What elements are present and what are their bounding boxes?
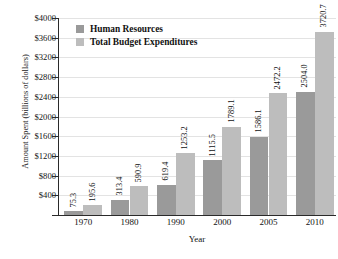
legend-swatch-icon (76, 25, 84, 33)
bar-value-label: 1253.2 (181, 126, 189, 149)
legend-item: Human Resources (76, 23, 197, 35)
bar-value-label: 1115.5 (208, 134, 216, 156)
y-axis-tick-mark (52, 176, 58, 177)
bar-value-label: 75.3 (69, 193, 77, 208)
y-axis-tick-mark (52, 77, 58, 78)
y-axis-tick-mark (52, 18, 58, 19)
y-axis-tick-mark (52, 195, 58, 196)
bar-value-label: 313.4 (116, 177, 124, 196)
bar-chart: Federal Budget Expenditures Amount Spent… (0, 0, 338, 259)
bar: 2504.0 (296, 92, 315, 215)
bar-value-label: 590.9 (135, 163, 143, 182)
y-axis-tick-mark (52, 136, 58, 137)
legend-item: Total Budget Expenditures (76, 36, 197, 48)
x-axis-tick-label: 1970 (74, 218, 92, 227)
bar-value-label: 619.4 (162, 162, 170, 181)
bar: 313.4 (111, 200, 130, 215)
bar: 1586.1 (250, 137, 269, 215)
legend-label: Human Resources (90, 24, 163, 34)
x-axis-tick-label: 1980 (121, 218, 139, 227)
bar: 3720.7 (315, 32, 334, 215)
legend-label: Total Budget Expenditures (90, 37, 197, 47)
bar-value-label: 1586.1 (255, 110, 263, 133)
legend-swatch-icon (76, 38, 84, 46)
bar-value-label: 2504.0 (301, 65, 309, 88)
chart-legend: Human ResourcesTotal Budget Expenditures (76, 23, 197, 49)
y-axis-tick-mark (52, 117, 58, 118)
x-axis-tick-label: 2000 (213, 218, 231, 227)
bar-value-label: 3720.7 (320, 5, 328, 28)
bar-value-label: 1789.1 (227, 100, 235, 123)
x-axis-tick-labels: 197019801990200020052010 (58, 218, 336, 232)
bar-value-label: 2472.2 (274, 66, 282, 89)
y-axis-tick-mark (52, 38, 58, 39)
bar-value-label: 195.6 (88, 183, 96, 202)
x-axis-title: Year (58, 234, 336, 244)
bar: 1253.2 (176, 153, 195, 215)
y-axis-tick-mark (52, 57, 58, 58)
x-axis-tick-label: 2010 (306, 218, 324, 227)
bar: 1115.5 (203, 160, 222, 215)
bar: 195.6 (83, 205, 102, 215)
y-axis-tick-mark (52, 97, 58, 98)
bar: 619.4 (157, 185, 176, 216)
x-axis-tick-label: 2005 (260, 218, 278, 227)
bar: 75.3 (64, 211, 83, 215)
x-axis-line (52, 215, 336, 216)
bar: 590.9 (130, 186, 149, 215)
bar: 2472.2 (269, 93, 288, 215)
x-axis-tick-label: 1990 (167, 218, 185, 227)
y-axis-tick-labels: $400$800$1200$1600$2000$2400$2800$3200$3… (12, 0, 56, 259)
y-axis-tick-mark (52, 156, 58, 157)
bar: 1789.1 (222, 127, 241, 215)
